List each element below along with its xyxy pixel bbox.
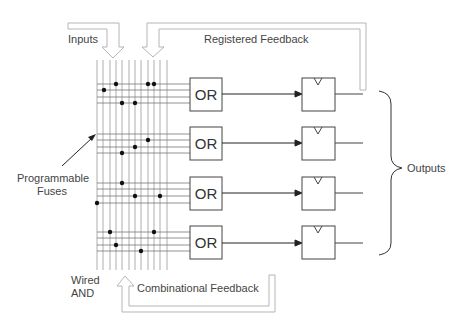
registered-feedback-label: Registered Feedback <box>204 33 309 45</box>
flip-flop-4 <box>302 226 335 259</box>
or-gate-label: OR <box>195 135 218 152</box>
or-gate-4: OR <box>190 226 222 259</box>
pal-diagram: Inputs Registered Feedback <box>0 0 460 323</box>
output-lines <box>335 94 363 243</box>
outputs-label: Outputs <box>407 162 446 174</box>
combinational-feedback-label: Combinational Feedback <box>137 282 259 294</box>
and-array-product-lines <box>97 84 190 251</box>
or-gate-label: OR <box>195 234 218 251</box>
outputs-brace <box>379 91 402 255</box>
and-array-vertical-lines <box>97 60 167 270</box>
flip-flop-3 <box>302 177 335 210</box>
programmable-fuses-pointer <box>62 134 96 166</box>
or-gate-label: OR <box>195 185 218 202</box>
or-gate-label: OR <box>195 86 218 103</box>
or-to-ff-arrows <box>222 91 302 246</box>
fuse-dots <box>95 82 162 253</box>
or-gate-2: OR <box>190 127 222 160</box>
wired-and-label-line1: Wired <box>71 274 100 286</box>
inputs-label: Inputs <box>68 33 98 45</box>
or-gate-3: OR <box>190 177 222 210</box>
programmable-fuses-label-line2: Fuses <box>37 185 67 197</box>
or-gate-1: OR <box>190 78 222 111</box>
wired-and-label-line2: AND <box>71 287 94 299</box>
flip-flop-2 <box>302 127 335 160</box>
programmable-fuses-label-line1: Programmable <box>17 172 89 184</box>
flip-flop-1 <box>302 78 335 111</box>
